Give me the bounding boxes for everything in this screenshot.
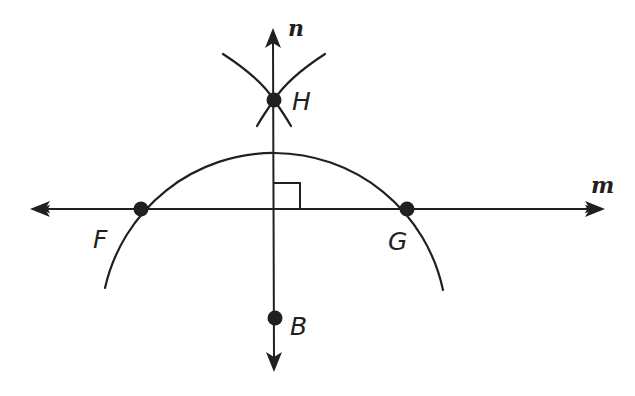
point-b — [268, 311, 283, 326]
right-angle-marker-icon — [274, 183, 300, 209]
label-line-m: m — [591, 172, 614, 198]
label-b: B — [290, 312, 307, 341]
label-line-n: n — [288, 15, 304, 41]
label-h: H — [292, 87, 311, 116]
label-f: F — [93, 225, 108, 254]
construction-diagram: F G H B n m — [0, 0, 635, 396]
point-g — [400, 202, 415, 217]
point-f — [134, 202, 149, 217]
point-h — [267, 93, 282, 108]
label-g: G — [388, 227, 407, 256]
